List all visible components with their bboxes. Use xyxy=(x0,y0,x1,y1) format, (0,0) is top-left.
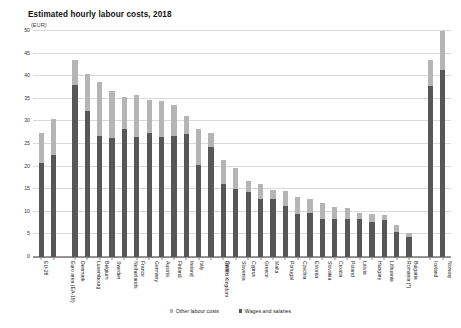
bar-segment-other-labour-costs xyxy=(440,31,445,70)
chart-subtitle: (EUR) xyxy=(31,22,47,28)
stacked-bar[interactable] xyxy=(246,181,251,257)
stacked-bar[interactable] xyxy=(307,199,312,257)
y-tick-label-35: 35 xyxy=(24,95,30,101)
bar-slot xyxy=(424,31,436,257)
y-tick-label-15: 15 xyxy=(24,185,30,191)
bar-segment-wages-and-salaries xyxy=(109,138,114,257)
x-tick xyxy=(279,257,291,260)
x-tick xyxy=(118,257,130,260)
x-tick xyxy=(131,257,143,260)
stacked-bar[interactable] xyxy=(283,191,288,257)
stacked-bar[interactable] xyxy=(320,203,325,257)
stacked-bar[interactable] xyxy=(357,213,362,257)
bar-segment-wages-and-salaries xyxy=(233,189,238,257)
x-tick xyxy=(35,257,47,260)
bar-segment-wages-and-salaries xyxy=(394,232,399,257)
stacked-bar[interactable] xyxy=(270,190,275,257)
bar-segment-wages-and-salaries xyxy=(97,136,102,257)
x-tick xyxy=(69,257,81,260)
stacked-bar[interactable] xyxy=(345,208,350,257)
stacked-bar[interactable] xyxy=(382,215,387,257)
bar-segment-other-labour-costs xyxy=(233,168,238,188)
x-label-slot: Ireland xyxy=(180,261,192,307)
stacked-bar[interactable] xyxy=(85,74,90,258)
bar-slot xyxy=(267,31,279,257)
x-label-slot: United Kingdom xyxy=(205,261,217,307)
bar-segment-wages-and-salaries xyxy=(369,222,374,257)
stacked-bar[interactable] xyxy=(39,133,44,257)
bar-slot xyxy=(69,31,81,257)
stacked-bar[interactable] xyxy=(109,91,114,257)
x-label-slot: Netherlands xyxy=(118,261,130,307)
stacked-bar[interactable] xyxy=(406,233,411,257)
x-label-slot: Spain xyxy=(217,261,229,307)
stacked-bar[interactable] xyxy=(72,60,77,257)
x-label-slot: Bulgaria xyxy=(403,261,415,307)
bar-segment-other-labour-costs xyxy=(270,190,275,199)
bar-segment-wages-and-salaries xyxy=(134,137,139,257)
legend-label: Other labour costs xyxy=(176,308,219,314)
bar-segment-wages-and-salaries xyxy=(428,86,433,257)
stacked-bar[interactable] xyxy=(196,129,201,257)
x-label-slot: Luxembourg xyxy=(81,261,93,307)
bar-segment-wages-and-salaries xyxy=(320,219,325,257)
bar-slot xyxy=(316,31,328,257)
stacked-bar[interactable] xyxy=(369,214,374,257)
bar-segment-wages-and-salaries xyxy=(122,129,127,257)
x-tick xyxy=(180,257,192,260)
bar-slot xyxy=(341,31,353,257)
x-label-slot: Lithuania xyxy=(378,261,390,307)
stacked-bar[interactable] xyxy=(122,97,127,257)
y-tick-label-30: 30 xyxy=(24,117,30,123)
group-separator xyxy=(415,31,424,257)
bar-segment-other-labour-costs xyxy=(307,199,312,213)
stacked-bar[interactable] xyxy=(134,95,139,257)
bar-segment-other-labour-costs xyxy=(295,197,300,213)
stacked-bar[interactable] xyxy=(171,105,176,257)
x-tick xyxy=(47,257,59,260)
x-label-slot: Greece xyxy=(254,261,266,307)
stacked-bar[interactable] xyxy=(159,101,164,257)
x-label-slot: EU-28 xyxy=(35,261,47,307)
bar-segment-other-labour-costs xyxy=(246,181,251,192)
legend-item[interactable]: Other labour costs xyxy=(170,308,219,314)
bar-segment-wages-and-salaries xyxy=(295,214,300,257)
x-label-slot: Belgium xyxy=(94,261,106,307)
bar-slot xyxy=(230,31,242,257)
bar-slot xyxy=(143,31,155,257)
stacked-bar[interactable] xyxy=(221,160,226,257)
stacked-bar[interactable] xyxy=(233,168,238,257)
stacked-bar[interactable] xyxy=(51,119,56,257)
bar-segment-other-labour-costs xyxy=(258,184,263,199)
x-tick xyxy=(353,257,365,260)
stacked-bar[interactable] xyxy=(332,207,337,257)
stacked-bar[interactable] xyxy=(184,116,189,257)
stacked-bar[interactable] xyxy=(440,31,445,257)
plot-area: 05101520253035404550 xyxy=(33,31,451,257)
x-tick xyxy=(329,257,341,260)
group-separator xyxy=(60,261,69,307)
stacked-bar[interactable] xyxy=(97,82,102,257)
x-axis-label: Norway xyxy=(446,261,451,278)
y-tick-label-25: 25 xyxy=(24,140,30,146)
bar-segment-other-labour-costs xyxy=(39,133,44,163)
bar-segment-other-labour-costs xyxy=(97,82,102,136)
bar-segment-wages-and-salaries xyxy=(51,155,56,257)
stacked-bar[interactable] xyxy=(394,225,399,257)
x-label-slot: Euro area (EA-19) xyxy=(47,261,59,307)
x-tick xyxy=(217,257,229,260)
bar-segment-other-labour-costs xyxy=(122,97,127,129)
legend-item[interactable]: Wages and salaries xyxy=(239,308,291,314)
bar-segment-other-labour-costs xyxy=(85,74,90,111)
stacked-bar[interactable] xyxy=(428,60,433,257)
bar-slot xyxy=(242,31,254,257)
stacked-bar[interactable] xyxy=(295,197,300,257)
bar-slot xyxy=(35,31,47,257)
y-tick-label-50: 50 xyxy=(24,27,30,33)
stacked-bar[interactable] xyxy=(147,100,152,257)
bar-segment-wages-and-salaries xyxy=(184,134,189,257)
x-label-slot: Slovenia xyxy=(230,261,242,307)
bar-segment-wages-and-salaries xyxy=(246,192,251,257)
stacked-bar[interactable] xyxy=(208,133,213,257)
stacked-bar[interactable] xyxy=(258,184,263,257)
